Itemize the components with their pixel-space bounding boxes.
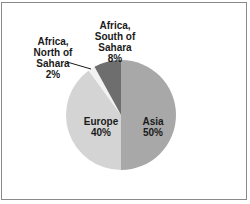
slice-asia bbox=[121, 60, 176, 170]
label-europe: Europe 40% bbox=[78, 116, 124, 138]
label-africa-north: Africa, North of Sahara 2% bbox=[28, 36, 78, 80]
label-africa-south: Africa, South of Sahara 8% bbox=[88, 20, 142, 64]
label-asia: Asia 50% bbox=[136, 116, 170, 138]
